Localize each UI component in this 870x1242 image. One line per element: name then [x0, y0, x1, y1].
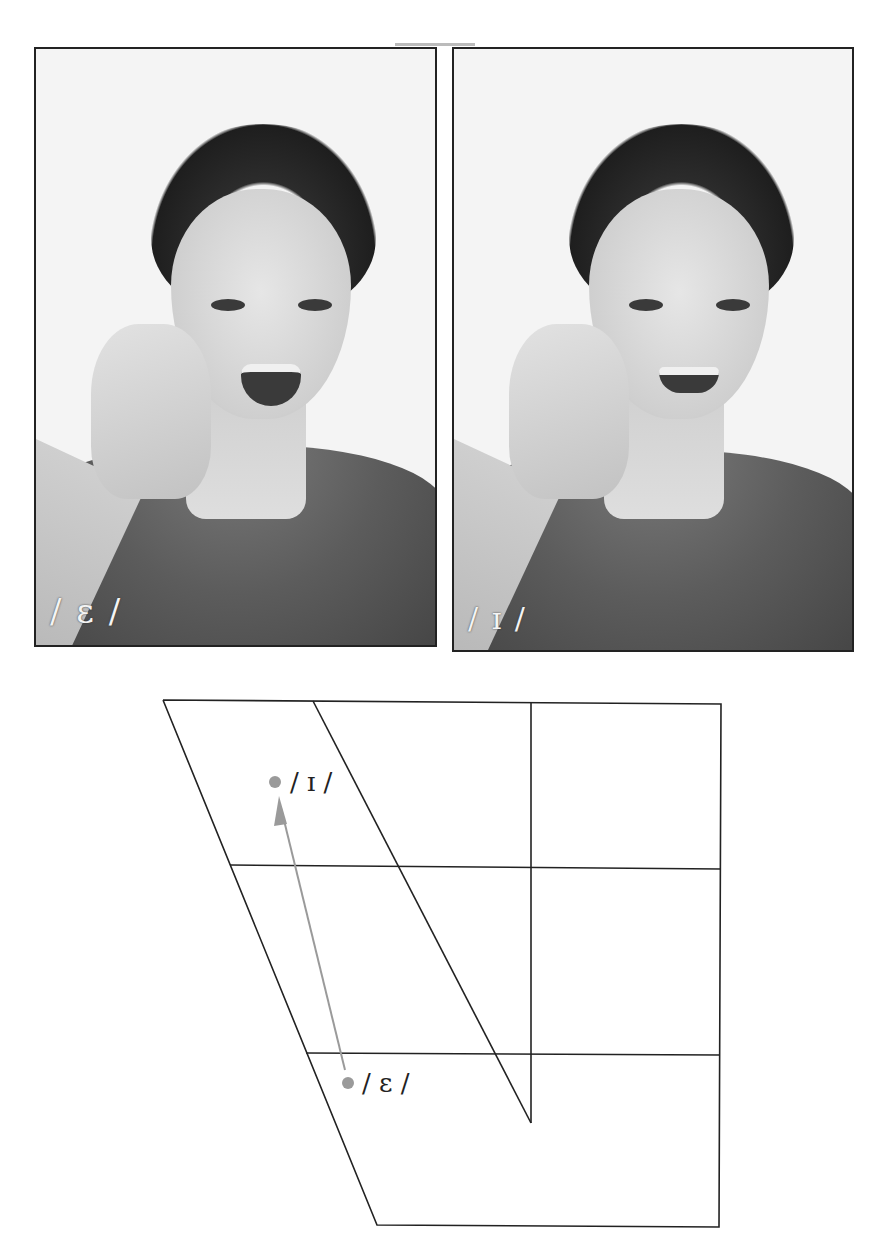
chart-grid	[163, 700, 721, 1227]
inner-diagonal	[313, 701, 531, 1123]
arrow-line	[281, 808, 345, 1070]
arrow-head-icon	[274, 796, 287, 826]
point-iota	[269, 776, 281, 788]
point-epsilon	[342, 1077, 354, 1089]
chart-outline	[163, 700, 721, 1227]
label-epsilon: / ɛ /	[362, 1068, 410, 1098]
row-divider-2	[306, 1053, 720, 1055]
label-iota: / ɪ /	[290, 767, 333, 797]
row-divider-1	[230, 865, 721, 869]
vowel-chart: / ɪ / / ɛ /	[0, 0, 870, 1242]
